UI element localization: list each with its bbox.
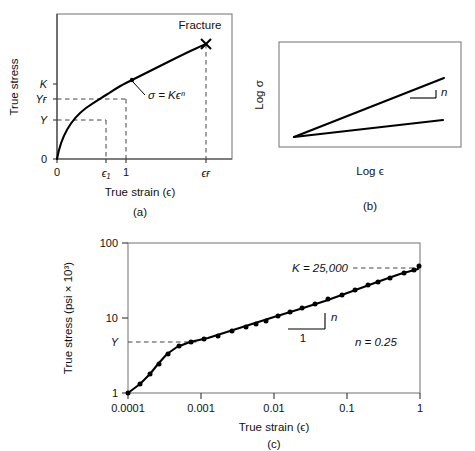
panel-b-label: (b) [363,200,377,212]
panel-a-ytick-0: 0 [41,153,47,165]
panel-a-x-ticks: 0 ϵ₁ 1 ϵғ [54,159,211,179]
panel-a-xtick-1: 1 [123,166,129,178]
panel-c-xtick-0p1: 0.1 [339,402,354,414]
panel-a-guides [57,44,206,159]
panel-c-xtick-0p001: 0.001 [187,402,215,414]
panel-c-yield-label: Y [111,336,119,348]
panel-b-slope-triangle [410,90,436,98]
panel-c-n-value-label: n = 0.25 [355,336,397,348]
panel-c-xtick-0p01: 0.01 [263,402,284,414]
panel-a-xlabel: True strain (ϵ) [105,186,176,198]
panel-a-xtick-eps1: ϵ₁ [102,167,111,179]
panel-c: 100 10 1 Y 0.0001 0.001 0.01 0.1 1 K = 2… [0,228,475,451]
panel-c-slope-triangle [288,313,325,329]
panel-a-xtick-0: 0 [54,166,60,178]
fracture-label: Fracture [179,19,222,31]
panel-a-y-ticks: 0 Y Yғ K [36,78,58,165]
panel-c-ytick-1: 1 [112,387,118,399]
panel-a: 0 Y Yғ K 0 ϵ₁ 1 ϵғ [0,0,245,225]
panel-b-slope-label: n [441,86,447,98]
panel-c-y-ticks: 100 10 1 Y [100,237,128,399]
panel-c-slope-run-label: 1 [300,332,306,344]
panel-c-xtick-1: 1 [417,402,423,414]
panel-c-xtick-0p0001: 0.0001 [111,402,145,414]
panel-a-xtick-epsf: ϵғ [201,167,211,179]
panel-c-ytick-100: 100 [100,237,118,249]
panel-a-ytick-Yf: Yғ [36,93,48,105]
panel-a-ytick-Y: Y [40,114,48,126]
panel-c-slope-rise-label: n [331,311,337,323]
panel-a-ytick-K: K [40,78,48,90]
panel-c-xlabel: True strain (ϵ) [239,421,310,433]
panel-c-ytick-10: 10 [106,312,118,324]
panel-a-label: (a) [133,206,147,218]
panel-c-x-ticks: 0.0001 0.001 0.01 0.1 1 [111,393,423,414]
equation-anchor-dot [130,78,134,82]
panel-c-elastic-curve [128,342,190,393]
panel-b-xlabel: Log ϵ [356,165,383,177]
panel-a-ylabel: True stress [8,58,20,115]
panel-c-K-label: K = 25,000 [292,262,349,274]
panel-b-ylabel: Log σ [253,80,265,109]
panel-c-ylabel: True stress (psi × 10³) [62,262,74,375]
power-law-equation: σ = Kϵⁿ [148,89,186,101]
panel-c-label: (c) [267,438,281,450]
panel-c-data-points [126,264,422,396]
panel-b: n Log σ Log ϵ (b) [247,20,475,225]
panel-a-stress-strain-curve [57,44,206,159]
equation-leader-line [133,82,145,95]
